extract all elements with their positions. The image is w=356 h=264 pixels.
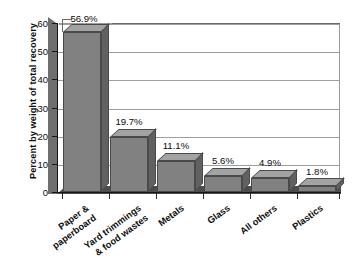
y-tick-label-10: 10: [22, 158, 48, 169]
bar-glass: [204, 176, 242, 192]
y-axis-line: [57, 23, 58, 193]
bar-plastics: [298, 186, 336, 192]
bar-value-yard-trimmings-food-wastes: 19.7%: [99, 116, 159, 127]
x-tick-mark-5: [297, 193, 298, 199]
y-tick-mark-10: [52, 164, 57, 165]
y-tick-label-60: 60: [22, 18, 48, 29]
y-tick-mark-30: [52, 108, 57, 109]
bar-leader-horizontal-paper-paperboard: [62, 19, 72, 20]
y-tick-mark-0: [52, 192, 57, 193]
bar-leader-to-frame-paper-paperboard: [112, 23, 340, 24]
y-tick-mark-40: [52, 79, 57, 80]
y-tick-label-0: 0: [22, 187, 48, 198]
x-tick-mark-0: [62, 193, 63, 199]
bar-front-yard-trimmings-food-wastes: [110, 137, 148, 192]
y-tick-mark-50: [52, 51, 57, 52]
y-tick-label-30: 30: [22, 102, 48, 113]
x-tick-mark-3: [203, 193, 204, 199]
bar-front-plastics: [298, 186, 336, 192]
x-tick-mark-2: [156, 193, 157, 199]
y-tick-label-40: 40: [22, 74, 48, 85]
x-tick-mark-4: [250, 193, 251, 199]
y-tick-label-50: 50: [22, 46, 48, 57]
y-tick-label-20: 20: [22, 130, 48, 141]
bar-all-others: [251, 178, 289, 192]
bar-front-all-others: [251, 178, 289, 192]
bar-value-plastics: 1.8%: [287, 166, 347, 177]
x-tick-mark-6: [339, 193, 340, 199]
bar-front-paper-paperboard: [63, 32, 101, 192]
y-tick-mark-20: [52, 136, 57, 137]
x-axis-line: [57, 192, 341, 193]
bar-metals: [157, 161, 195, 192]
bar-chart: Percent by weight of total recovery 60 5…: [0, 0, 356, 264]
bar-side-paper-paperboard: [101, 23, 109, 192]
bar-yard-trimmings-food-wastes: [110, 137, 148, 192]
x-tick-mark-1: [109, 193, 110, 199]
bar-paper-paperboard: [63, 32, 101, 192]
bar-front-metals: [157, 161, 195, 192]
bar-side-yard-trimmings-food-wastes: [148, 128, 156, 192]
bar-front-glass: [204, 176, 242, 192]
bar-value-metals: 11.1%: [146, 140, 206, 151]
bar-leader-vertical-paper-paperboard: [62, 19, 63, 32]
